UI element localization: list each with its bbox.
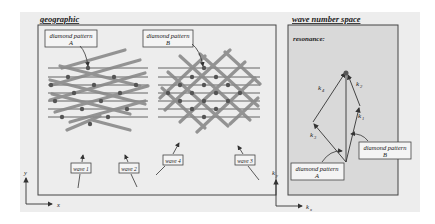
wave-4-label: wave 4 <box>156 143 183 175</box>
svg-text:wave 3: wave 3 <box>237 158 253 164</box>
wave-1-label: wave 1 <box>71 155 91 188</box>
pattern-b-bars <box>160 50 260 132</box>
svg-text:B: B <box>383 151 387 158</box>
geographic-axes: y x <box>23 169 60 208</box>
ky-axis-label: k <box>272 169 275 176</box>
svg-text:wave 1: wave 1 <box>73 166 89 172</box>
svg-text:diamond pattern: diamond pattern <box>363 144 406 151</box>
svg-text:diamond pattern: diamond pattern <box>146 32 189 39</box>
pattern-a-bars <box>50 50 148 130</box>
wave-2-label: wave 2 <box>119 155 139 187</box>
svg-text:x: x <box>309 207 312 212</box>
resonance-label: resonance: <box>293 35 325 43</box>
svg-text:B: B <box>166 39 170 46</box>
svg-text:A: A <box>314 172 319 179</box>
svg-text:A: A <box>68 39 73 46</box>
diagram-svg: geographic <box>0 0 435 224</box>
geographic-panel: geographic <box>23 14 276 208</box>
wavenumber-panel: wave number space resonance: k 4 k <box>272 14 411 212</box>
top-vertex <box>344 71 349 76</box>
svg-text:wave 4: wave 4 <box>165 158 181 164</box>
y-axis-label: y <box>23 169 27 176</box>
x-axis-label: x <box>56 201 60 208</box>
wavenumber-title: wave number space <box>292 14 361 24</box>
svg-text:diamond pattern: diamond pattern <box>295 165 338 172</box>
geographic-title: geographic <box>39 14 79 24</box>
svg-text:diamond pattern: diamond pattern <box>49 32 92 39</box>
svg-text:wave 2: wave 2 <box>121 166 137 172</box>
kx-axis-label: k <box>306 203 309 210</box>
wave-3-label: wave 3 <box>235 146 259 180</box>
callout-pattern-b: diamond pattern B <box>143 30 203 66</box>
diagram-canvas: geographic <box>0 0 435 224</box>
svg-text:1: 1 <box>362 116 364 121</box>
svg-text:y: y <box>275 173 278 178</box>
